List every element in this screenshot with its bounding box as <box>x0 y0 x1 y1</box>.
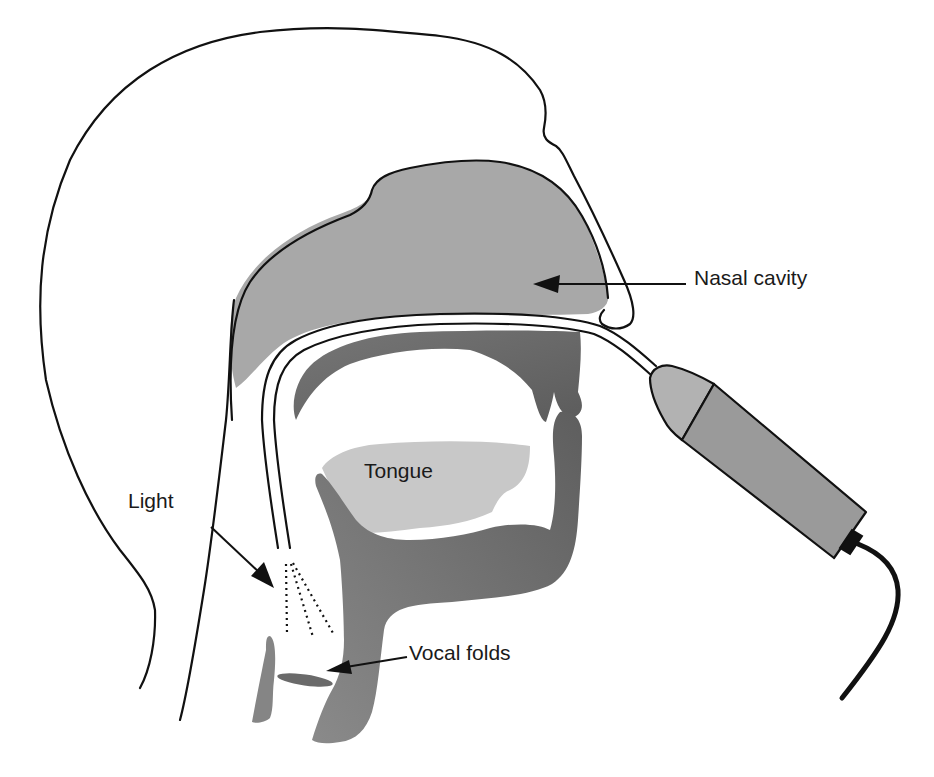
light-arrow-line <box>211 527 262 575</box>
hard-palate-tissue <box>294 331 582 423</box>
vocal-folds-shape <box>277 671 334 690</box>
label-vocal-folds: Vocal folds <box>409 641 511 664</box>
endoscope-handle <box>682 384 866 558</box>
label-nasal-cavity: Nasal cavity <box>694 266 808 289</box>
label-tongue: Tongue <box>364 459 433 482</box>
endoscope-cable <box>842 544 898 698</box>
light-arrow-head <box>251 562 274 588</box>
light-annotation: Light <box>128 489 274 588</box>
light-beam <box>286 563 333 637</box>
arytenoid-tissue <box>252 636 275 723</box>
label-light: Light <box>128 489 174 512</box>
head-outline <box>180 300 234 720</box>
endoscopy-diagram: Nasal cavity Tongue Light Vocal folds <box>0 0 934 777</box>
vocal-folds-arrow-head <box>326 660 352 674</box>
